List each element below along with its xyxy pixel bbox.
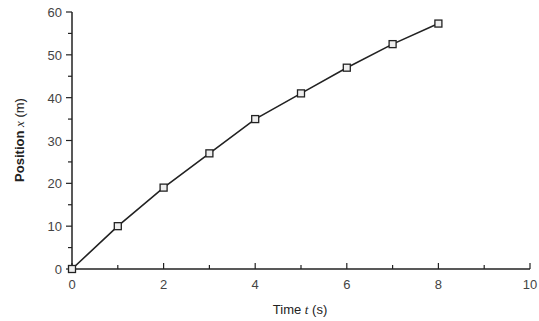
data-series [69, 20, 442, 272]
series-line [72, 24, 438, 269]
y-tick-label: 10 [48, 219, 62, 234]
y-tick-label: 50 [48, 48, 62, 63]
y-axis-label: Position x (m) [12, 98, 27, 182]
y-tick-label: 0 [55, 262, 62, 277]
y-tick-label: 60 [48, 5, 62, 20]
data-point-marker [206, 150, 213, 157]
x-tick-label: 0 [68, 277, 75, 292]
data-point-marker [252, 116, 259, 123]
data-point-marker [298, 90, 305, 97]
data-point-marker [114, 223, 121, 230]
x-tick-label: 4 [252, 277, 259, 292]
data-point-marker [343, 64, 350, 71]
x-tick-label: 8 [435, 277, 442, 292]
x-tick-label: 10 [523, 277, 537, 292]
data-point-marker [435, 20, 442, 27]
data-point-marker [69, 266, 76, 273]
data-point-marker [389, 41, 396, 48]
x-axis-label: Time t (s) [273, 302, 327, 317]
y-tick-label: 20 [48, 176, 62, 191]
y-tick-label: 40 [48, 91, 62, 106]
x-tick-label: 2 [160, 277, 167, 292]
x-tick-label: 6 [343, 277, 350, 292]
axes: 02468100102030405060 [48, 5, 538, 292]
position-time-chart: 02468100102030405060 Time t (s) Position… [0, 0, 539, 321]
y-tick-label: 30 [48, 134, 62, 149]
data-point-marker [160, 184, 167, 191]
